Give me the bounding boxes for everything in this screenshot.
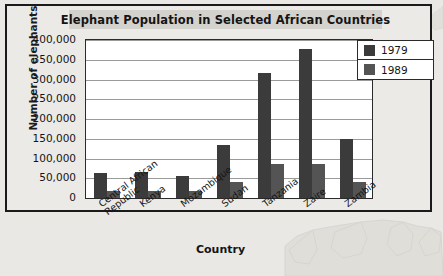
y-axis-tick-label: 150,000 — [33, 132, 76, 144]
y-axis-tick-labels: 400,000350,000300,000250,000200,000150,0… — [7, 39, 81, 197]
legend-swatch-icon — [364, 64, 375, 75]
page-title: Elephant Population in Selected African … — [61, 13, 390, 27]
y-axis-tick-label: 350,000 — [33, 53, 76, 65]
x-axis-tick-labels: Central AfricanRepublicKenyaMozambiqueSu… — [7, 199, 443, 247]
legend-swatch-icon — [364, 45, 375, 56]
legend-item-1989: 1989 — [358, 60, 433, 79]
bar-group — [168, 40, 209, 198]
chart-legend: 19791989 — [357, 40, 434, 80]
bar-group — [290, 40, 331, 198]
x-axis-title: Country — [7, 243, 434, 256]
bar-tanzania-1979 — [258, 73, 271, 198]
y-axis-tick-label: 300,000 — [33, 73, 76, 85]
y-axis-tick-label: 200,000 — [33, 112, 76, 124]
y-axis-tick-label: 50,000 — [39, 171, 76, 183]
y-axis-tick-label: 400,000 — [33, 33, 76, 45]
bar-group — [249, 40, 290, 198]
legend-label: 1979 — [381, 44, 408, 56]
bar-zaire-1979 — [299, 49, 312, 198]
bar-zambia-1979 — [340, 139, 353, 198]
y-axis-tick-label: 100,000 — [33, 152, 76, 164]
chart-title-bar: Elephant Population in Selected African … — [12, 10, 439, 30]
legend-label: 1989 — [381, 64, 408, 76]
bar-group — [86, 40, 127, 198]
legend-item-1979: 1979 — [358, 41, 433, 60]
chart-frame: Elephant Population in Selected African … — [5, 4, 432, 212]
y-axis-tick-label: 250,000 — [33, 92, 76, 104]
